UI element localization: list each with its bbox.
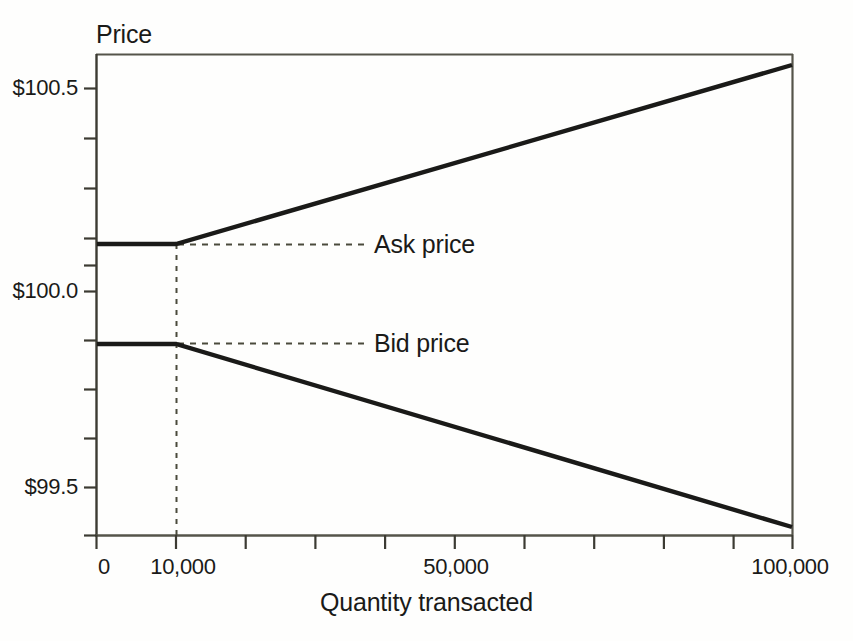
y-tick-label-99-5: $99.5 [0, 474, 78, 500]
ask-price-annotation-label: Ask price [374, 230, 475, 259]
x-tick-label-0: 0 [98, 554, 110, 580]
y-tick-label-100-5: $100.5 [0, 75, 78, 101]
x-axis-ticks [97, 535, 793, 549]
plot-frame [95, 54, 793, 536]
y-axis-ticks [84, 89, 96, 536]
chart-figure: Price Quantity transacted $100.5 $100.0 … [0, 0, 853, 641]
x-axis-title: Quantity transacted [0, 588, 853, 617]
y-axis-title: Price [96, 22, 152, 47]
bid-price-annotation-label: Bid price [374, 329, 469, 358]
series-bid-price-line [97, 344, 792, 527]
series-ask-price-line [97, 65, 792, 244]
x-tick-label-50000: 50,000 [423, 554, 489, 580]
x-tick-label-10000: 10,000 [150, 554, 216, 580]
y-tick-label-100-0: $100.0 [0, 278, 78, 304]
x-tick-label-100000: 100,000 [751, 554, 828, 580]
chart-plot-svg [0, 0, 853, 641]
